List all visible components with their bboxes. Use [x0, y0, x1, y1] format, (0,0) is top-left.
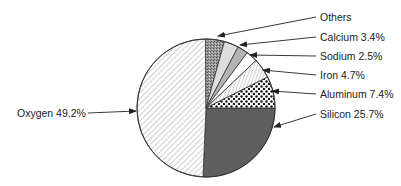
callout-arrow-others	[218, 17, 316, 36]
slice-label-iron: Iron 4.7%	[320, 69, 365, 81]
slice-label-silicon: Silicon 25.7%	[320, 108, 384, 120]
callout-arrow-aluminum	[272, 91, 316, 94]
slice-label-oxygen: Oxygen 49.2%	[17, 107, 86, 119]
slice-label-aluminum: Aluminum 7.4%	[320, 88, 394, 100]
callout-arrow-sodium	[250, 55, 316, 56]
slice-label-others: Others	[320, 11, 352, 23]
slice-label-sodium: Sodium 2.5%	[320, 50, 382, 62]
callout-arrow-silicon	[274, 114, 316, 127]
callout-arrow-oxygen	[88, 111, 136, 113]
pie-slice-oxygen	[137, 39, 206, 177]
callout-arrow-iron	[263, 70, 316, 75]
pie-chart: Silicon 25.7%Oxygen 49.2%OthersCalcium 3…	[0, 0, 401, 186]
slice-label-calcium: Calcium 3.4%	[320, 31, 385, 43]
pie-slice-silicon	[203, 108, 275, 177]
callout-arrow-calcium	[240, 37, 316, 45]
